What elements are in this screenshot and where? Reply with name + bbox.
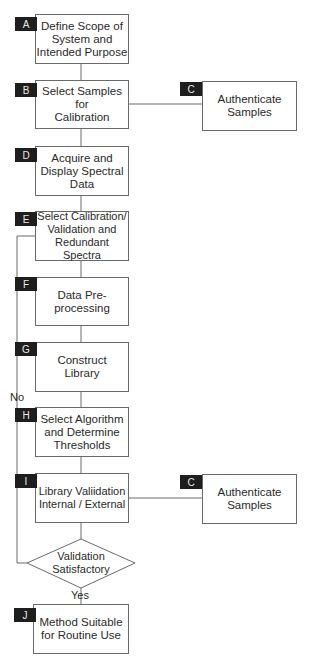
step-c2-tag: C [180,475,202,489]
step-d-box: Acquire and Display Spectral Data [35,146,129,196]
step-j-tag: J [14,608,36,622]
step-f-box: Data Pre- processing [35,277,129,326]
no-label: No [10,391,24,403]
step-f-text: Data Pre- processing [54,289,110,315]
step-f-tag: F [15,277,37,291]
step-a-text: Define Scope of System and Intended Purp… [37,20,128,59]
step-a-box: Define Scope of System and Intended Purp… [35,14,129,64]
step-i-text: Library Valiidation Internal / External [39,485,126,511]
step-e-box: Select Calibration/ Validation and Redun… [35,211,129,261]
step-h-tag: H [15,408,37,422]
step-i-box: Library Valiidation Internal / External [35,473,129,523]
step-g-text: Construct Library [57,354,106,380]
yes-label: Yes [71,589,89,601]
step-d-text: Acquire and Display Spectral Data [40,152,123,191]
step-c2-text: Authenticate Samples [218,486,282,512]
step-b-tag: B [15,83,37,97]
step-e-text: Select Calibration/ Validation and Redun… [36,210,128,262]
step-c1-text: Authenticate Samples [218,93,282,119]
decision-text: Validation Satisfactory [41,550,121,576]
step-g-tag: G [15,342,37,356]
step-g-box: Construct Library [35,342,129,392]
step-e-tag: E [15,212,37,226]
step-j-text: Method Suitable for Routine Use [39,616,122,642]
step-b-box: Select Samples for Calibration [35,80,129,129]
step-c1-tag: C [180,82,202,96]
step-j-box: Method Suitable for Routine Use [33,604,129,654]
step-c2-box: Authenticate Samples [202,474,297,524]
step-d-tag: D [15,148,37,162]
step-c1-box: Authenticate Samples [202,81,297,131]
step-a-tag: A [15,17,37,31]
step-i-tag: I [15,474,37,488]
step-h-box: Select Algorithm and Determine Threshold… [35,407,129,457]
step-h-text: Select Algorithm and Determine Threshold… [40,413,123,452]
step-b-text: Select Samples for Calibration [42,85,122,124]
